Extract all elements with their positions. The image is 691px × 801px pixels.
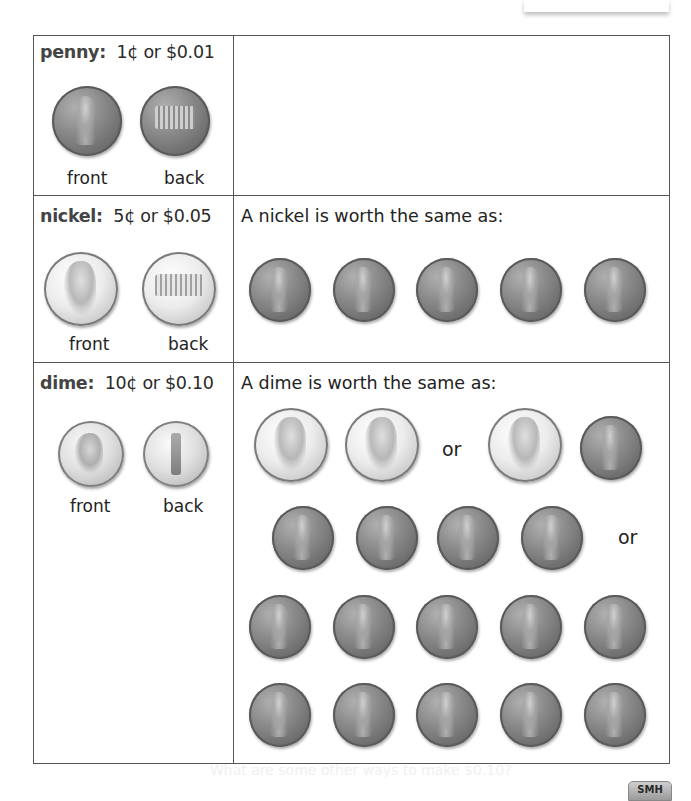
penny-icon [500,683,562,747]
nickel-title: nickel: 5¢ or $0.05 [40,206,211,226]
penny-icon [437,506,499,570]
dime-prompt: A dime is worth the same as: [241,373,496,393]
penny-icon [249,595,311,659]
nickel-value: 5¢ or $0.05 [113,206,211,226]
dime-back-label: back [163,496,203,516]
penny-icon [580,416,642,480]
dime-front-icon [58,421,124,487]
nickel-icon [254,408,328,482]
penny-icon [333,683,395,747]
penny-icon [249,258,311,322]
column-divider [233,36,234,763]
penny-back-icon [140,86,210,156]
dime-back-icon [143,421,209,487]
penny-name: penny: [40,42,106,62]
row-divider [34,195,669,196]
or-label: or [618,526,637,548]
penny-icon [416,683,478,747]
penny-title: penny: 1¢ or $0.01 [40,42,215,62]
faded-bleed-text: What are some other ways to make $0.10? [210,762,512,778]
penny-icon [584,258,646,322]
penny-icon [500,595,562,659]
dime-title: dime: 10¢ or $0.10 [40,373,214,393]
nickel-back-label: back [168,334,208,354]
dime-name: dime: [40,373,94,393]
penny-icon [584,683,646,747]
penny-front-icon [52,86,122,156]
row-divider [34,362,669,363]
penny-icon [521,506,583,570]
penny-back-label: back [164,168,204,188]
penny-icon [416,595,478,659]
penny-icon [416,258,478,322]
penny-icon [249,683,311,747]
penny-icon [584,595,646,659]
smh-badge: SMH [628,781,672,801]
dime-front-label: front [70,496,110,516]
nickel-icon [345,408,419,482]
or-label: or [442,438,461,460]
page-tab [524,0,669,12]
nickel-front-icon [44,252,118,326]
coin-table: penny: 1¢ or $0.01 front back nickel: 5¢… [33,35,670,764]
penny-front-label: front [67,168,107,188]
penny-icon [500,258,562,322]
penny-icon [356,506,418,570]
nickel-name: nickel: [40,206,103,226]
penny-icon [333,258,395,322]
nickel-icon [488,408,562,482]
penny-value: 1¢ or $0.01 [116,42,214,62]
nickel-back-icon [142,252,216,326]
dime-value: 10¢ or $0.10 [105,373,214,393]
nickel-front-label: front [69,334,109,354]
nickel-prompt: A nickel is worth the same as: [241,206,503,226]
penny-icon [272,506,334,570]
penny-icon [333,595,395,659]
